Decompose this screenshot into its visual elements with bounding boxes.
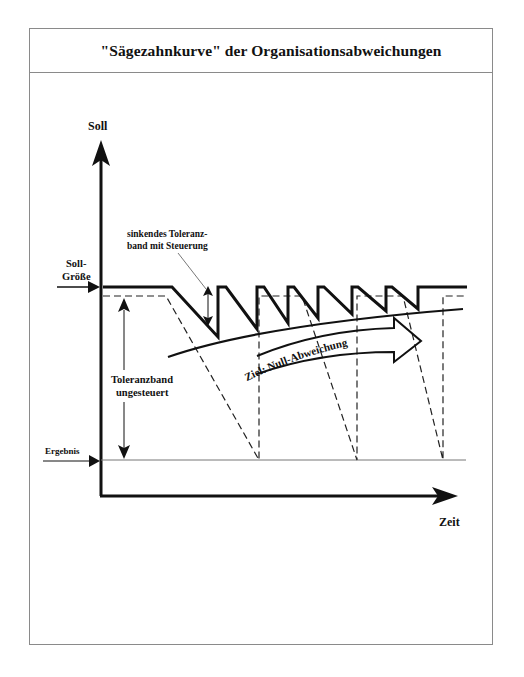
ergebnis-label: Ergebnis bbox=[45, 446, 80, 456]
sawtooth-diagram: Ziel: Null-Abweichung Soll Zeit Soll- Gr… bbox=[0, 0, 524, 677]
sinkend-label-1: sinkendes Toleranz- bbox=[127, 229, 208, 239]
y-axis-label: Soll bbox=[88, 119, 108, 133]
y-axis bbox=[92, 140, 110, 496]
ergebnis-arrow-icon bbox=[89, 455, 100, 467]
toleranzband-label-2: ungesteuert bbox=[116, 387, 169, 398]
leader-line bbox=[178, 253, 206, 289]
ziel-arrow: Ziel: Null-Abweichung bbox=[242, 318, 421, 383]
x-axis bbox=[100, 487, 458, 505]
soll-groesse-label-2: Größe bbox=[62, 271, 91, 282]
sinkend-label-2: band mit Steuerung bbox=[127, 241, 208, 251]
sinkendes-toleranzband-arrow bbox=[178, 253, 213, 326]
soll-groesse-label-1: Soll- bbox=[66, 258, 87, 269]
x-axis-label: Zeit bbox=[439, 515, 460, 529]
soll-groesse-arrow-icon bbox=[88, 281, 100, 293]
toleranzband-label-1: Toleranzband bbox=[111, 374, 173, 385]
arrow-up-icon bbox=[118, 298, 130, 312]
